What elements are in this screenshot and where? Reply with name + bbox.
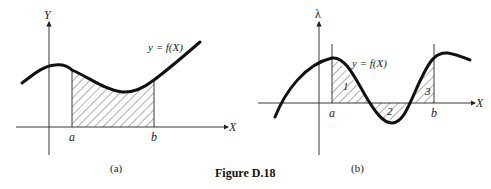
- shaded-area: [72, 70, 154, 127]
- panel-b: λ X y = f(X) a b 1 2 3 (b): [258, 7, 484, 175]
- curve-label: y = f(X): [147, 41, 183, 54]
- curve-label: y = f(X): [351, 57, 387, 70]
- upper-limit-label: b: [151, 130, 157, 144]
- y-axis-label: λ: [315, 7, 321, 21]
- panel-a: Y X y = f(X) a b (a): [16, 8, 237, 175]
- panel-a-caption: (a): [110, 162, 123, 175]
- region-3-label: 3: [424, 85, 431, 97]
- x-axis-label: X: [475, 96, 484, 110]
- lower-limit-label: a: [329, 106, 335, 120]
- figure-title: Figure D.18: [215, 166, 275, 180]
- x-axis-label: X: [228, 120, 237, 134]
- panel-b-caption: (b): [351, 162, 364, 175]
- figure-canvas: Y X y = f(X) a b (a) λ X y = f(X) a b 1 …: [0, 0, 491, 189]
- region-1-label: 1: [343, 80, 349, 92]
- region-2-label: 2: [387, 105, 393, 117]
- lower-limit-label: a: [69, 130, 75, 144]
- y-axis-label: Y: [44, 8, 52, 22]
- upper-limit-label: b: [431, 106, 437, 120]
